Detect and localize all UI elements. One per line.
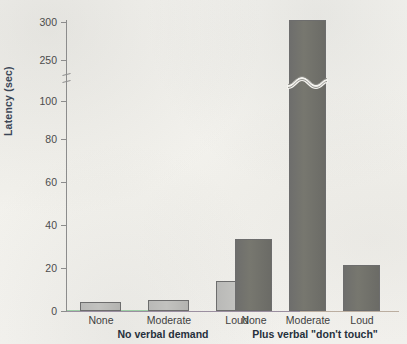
y-tick-label-20: 20 — [17, 262, 57, 274]
x-label-left-none: None — [76, 314, 126, 326]
y-tick-label-0: 0 — [17, 305, 57, 317]
y-tick-label-100: 100 — [17, 95, 57, 107]
y-tick-label-300: 300 — [17, 16, 57, 28]
y-tick-20 — [61, 268, 67, 269]
axis-break-icon — [62, 72, 71, 84]
bar-plus-verbal-none — [235, 239, 272, 311]
y-tick-0 — [61, 311, 67, 312]
group-label-plus-verbal: Plus verbal "don't touch" — [223, 328, 407, 340]
y-tick-60 — [61, 182, 67, 183]
x-label-left-moderate: Moderate — [133, 314, 205, 326]
x-label-right-moderate: Moderate — [272, 314, 344, 326]
y-tick-80 — [61, 139, 67, 140]
y-axis-title: Latency (sec) — [2, 6, 14, 136]
y-tick-300 — [61, 22, 67, 23]
bar-plus-verbal-loud — [343, 265, 380, 311]
y-tick-label-60: 60 — [17, 176, 57, 188]
bar-no-verbal-demand-moderate — [148, 300, 189, 311]
bar-no-verbal-demand-none — [80, 302, 121, 311]
y-tick-100 — [61, 101, 67, 102]
x-label-right-loud: Loud — [337, 314, 387, 326]
y-tick-label-40: 40 — [17, 219, 57, 231]
y-tick-40 — [61, 225, 67, 226]
y-tick-label-80: 80 — [17, 133, 57, 145]
bar-plus-verbal-moderate — [289, 20, 326, 311]
bar-chart: Latency (sec) 300 250 100 80 60 40 20 0 … — [0, 0, 407, 344]
y-tick-250 — [61, 60, 67, 61]
y-tick-label-250: 250 — [17, 54, 57, 66]
x-axis-line-fringe-right — [300, 311, 399, 312]
